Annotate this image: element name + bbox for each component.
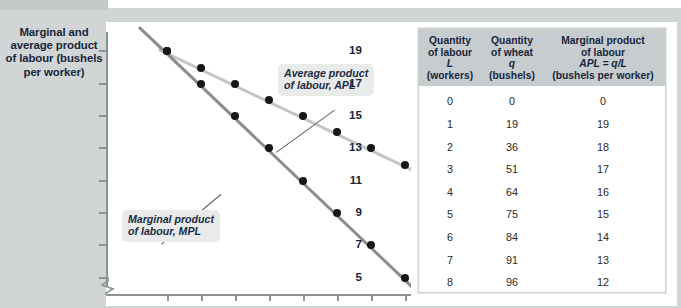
mpl-callout: Marginal product of labour, MPL — [122, 210, 220, 242]
cell-quantity-wheat: 51 — [481, 158, 543, 181]
cell-quantity-wheat: 84 — [481, 226, 543, 249]
cell-quantity-wheat: 64 — [481, 181, 543, 204]
y-tick-label: 15 — [322, 108, 362, 121]
th-l1: Quantity — [419, 35, 481, 47]
data-point — [197, 64, 205, 72]
y-tick — [99, 244, 106, 246]
mpl-callout-line1: Marginal product — [128, 213, 214, 225]
cell-quantity-wheat: 75 — [481, 203, 543, 226]
data-point — [265, 96, 273, 104]
cell-marginal-product: 15 — [543, 203, 663, 226]
table-header-marginal-product: Marginal product of labour APL = q/L (bu… — [543, 29, 663, 86]
th-l2: of wheat — [481, 47, 543, 59]
cell-quantity-labour: 8 — [419, 271, 481, 294]
cell-quantity-wheat: 0 — [481, 90, 543, 113]
cell-quantity-labour: 5 — [419, 203, 481, 226]
table-row: 35117 — [419, 158, 665, 181]
y-tick-label: 9 — [322, 205, 362, 218]
y-tick-label: 19 — [322, 43, 362, 56]
y-tick — [99, 83, 106, 85]
data-point — [299, 177, 307, 185]
th-l1: Quantity — [481, 35, 543, 47]
table-header-row: Quantity of labour L (workers) Quantity … — [419, 29, 665, 86]
y-tick-label: 7 — [322, 237, 362, 250]
cell-quantity-wheat: 91 — [481, 249, 543, 272]
y-tick — [99, 212, 106, 214]
cell-marginal-product: 14 — [543, 226, 663, 249]
th-sym: L — [447, 58, 453, 69]
table-row: 000 — [419, 90, 665, 113]
y-tick-label: 11 — [322, 173, 362, 186]
th-sym: APL = q/L — [579, 58, 627, 69]
data-table: Quantity of labour L (workers) Quantity … — [418, 28, 666, 293]
table-row: 79113 — [419, 249, 665, 272]
th-l2: of labour — [419, 47, 481, 59]
table-row: 57515 — [419, 203, 665, 226]
cell-quantity-labour: 3 — [419, 158, 481, 181]
cell-quantity-wheat: 19 — [481, 113, 543, 136]
data-point — [401, 274, 409, 282]
data-point — [401, 161, 409, 169]
cell-marginal-product: 13 — [543, 249, 663, 272]
cell-marginal-product: 18 — [543, 136, 663, 159]
table-header-quantity-wheat: Quantity of wheat q (bushels) — [481, 29, 543, 86]
y-tick — [99, 50, 106, 52]
table-header-quantity-labour: Quantity of labour L (workers) — [419, 29, 481, 86]
cell-quantity-labour: 1 — [419, 113, 481, 136]
cell-marginal-product: 16 — [543, 181, 663, 204]
data-point — [231, 80, 239, 88]
th-l1: Marginal product — [543, 35, 663, 47]
y-tick-label: 5 — [322, 270, 362, 283]
chart-area: Average product of labour, APL Marginal … — [106, 22, 411, 306]
cell-marginal-product: 17 — [543, 158, 663, 181]
y-tick — [99, 115, 106, 117]
cell-quantity-wheat: 96 — [481, 271, 543, 294]
th-l4: (bushels per worker) — [543, 70, 663, 82]
table-row: 89612 — [419, 271, 665, 294]
cell-quantity-labour: 2 — [419, 136, 481, 159]
table-row: 46416 — [419, 181, 665, 204]
th-l4: (bushels) — [481, 70, 543, 82]
y-tick — [99, 180, 106, 182]
y-tick-label: 13 — [322, 140, 362, 153]
y-tick — [99, 147, 106, 149]
table-row: 11919 — [419, 113, 665, 136]
th-sym: q — [509, 58, 515, 69]
cell-quantity-wheat: 36 — [481, 136, 543, 159]
th-l2: of labour — [543, 47, 663, 59]
cell-marginal-product: 19 — [543, 113, 663, 136]
table-body: 0001191923618351174641657515684147911389… — [419, 86, 665, 293]
table-row: 23618 — [419, 136, 665, 159]
panel-top-tab — [0, 0, 108, 10]
y-tick-label: 17 — [322, 76, 362, 89]
cell-quantity-labour: 0 — [419, 90, 481, 113]
cell-quantity-labour: 7 — [419, 249, 481, 272]
table-row: 68414 — [419, 226, 665, 249]
cell-quantity-labour: 4 — [419, 181, 481, 204]
y-axis-title: Marginal and average product of labour (… — [4, 26, 104, 79]
cell-quantity-labour: 6 — [419, 226, 481, 249]
figure-root: Marginal and average product of labour (… — [0, 0, 681, 308]
data-point — [197, 80, 205, 88]
cell-marginal-product: 0 — [543, 90, 663, 113]
th-l4: (workers) — [419, 70, 481, 82]
cell-marginal-product: 12 — [543, 271, 663, 294]
mpl-callout-line2: of labour, MPL — [128, 225, 214, 237]
